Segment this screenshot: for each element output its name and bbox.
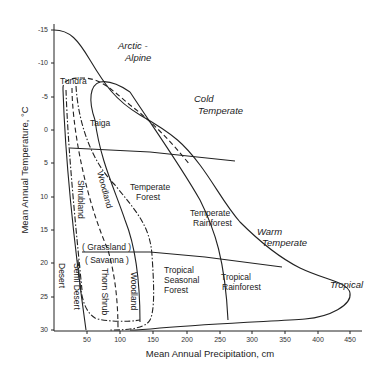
label-alpine: Alpine	[124, 52, 151, 63]
x-ticks: 50 100 150 200 250 300 350 400 450	[83, 331, 356, 343]
label-temperate-forest-2: Forest	[136, 192, 161, 202]
y-ticks: -15 -10 -5 0 5 10 15 20 25 30	[38, 26, 54, 333]
x-tick-label: 250	[214, 336, 226, 343]
label-tropical-seasonal-1: Tropical	[164, 265, 194, 275]
label-desert: Desert	[57, 263, 67, 289]
label-thorn-shrub: Thorn Shrub	[100, 268, 110, 316]
y-tick-label: -10	[38, 59, 48, 66]
label-temperate-rainforest-2: Rainforest	[193, 218, 232, 228]
label-tropical-rainforest-2: Rainforest	[222, 282, 261, 292]
label-tropical-seasonal-2: Seasonal	[164, 275, 200, 285]
x-tick-label: 100	[114, 336, 126, 343]
x-tick-label: 50	[83, 336, 91, 343]
x-tick-label: 200	[181, 336, 193, 343]
y-tick-label: 5	[44, 159, 48, 166]
label-semi-desert: Semi Desert	[72, 263, 82, 310]
label-woodland-upper: Woodland	[95, 170, 115, 210]
label-woodland-lower: Woodland	[129, 272, 139, 310]
label-cold-temperate: Temperate	[198, 105, 243, 116]
label-savanna: ( Savanna )	[85, 255, 129, 265]
y-tick-label: 0	[44, 126, 48, 133]
cold-warm-boundary	[70, 148, 235, 161]
y-tick-label: 25	[40, 293, 48, 300]
label-shrubland: Shrubland	[76, 180, 86, 219]
y-axis-title: Mean Annual Temperature, °C	[19, 106, 30, 233]
x-tick-label: 350	[279, 336, 291, 343]
temperate-forest-dashdot	[76, 86, 154, 330]
taiga-boundary	[91, 82, 130, 120]
label-warm-temperate: Temperate	[262, 237, 307, 248]
label-tropical-rainforest-1: Tropical	[221, 272, 251, 282]
label-temperate-forest-1: Temperate	[130, 182, 170, 192]
label-warm: Warm	[257, 226, 282, 237]
y-tick-label: 30	[40, 326, 48, 333]
y-tick-label: 20	[40, 259, 48, 266]
x-axis-title: Mean Annual Precipitation, cm	[146, 348, 274, 359]
label-tundra: Tundra	[60, 76, 87, 86]
y-tick-label: -15	[38, 26, 48, 33]
y-tick-label: -5	[42, 93, 48, 100]
biome-diagram: -15 -10 -5 0 5 10 15 20 25 30 50 100 150…	[0, 0, 386, 376]
label-arctic: Arctic -	[117, 40, 148, 51]
label-tropical-seasonal-3: Forest	[164, 285, 189, 295]
label-cold: Cold	[194, 93, 214, 104]
x-tick-label: 400	[312, 336, 324, 343]
label-temperate-rainforest-1: Temperate	[190, 208, 230, 218]
y-tick-label: 10	[40, 193, 48, 200]
label-tropical-zone: Tropical	[330, 279, 364, 290]
y-tick-label: 15	[40, 226, 48, 233]
x-tick-label: 450	[344, 336, 356, 343]
label-grassland: ( Grassland )	[82, 242, 131, 252]
x-tick-label: 150	[147, 336, 159, 343]
label-taiga: Taiga	[90, 118, 111, 128]
x-tick-label: 300	[246, 336, 258, 343]
